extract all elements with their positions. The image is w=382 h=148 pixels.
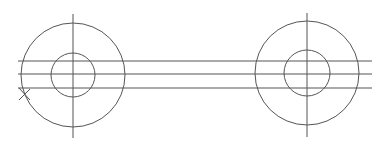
rails (18, 61, 372, 88)
x-mark-icon (19, 88, 30, 100)
left-hub (21, 14, 125, 138)
right-hub (255, 13, 359, 137)
technical-drawing (0, 0, 382, 148)
